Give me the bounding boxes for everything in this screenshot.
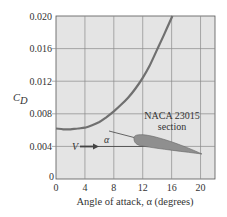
angle-label: α — [104, 134, 110, 145]
x-tick-label: 8 — [111, 182, 116, 193]
x-tick-label: 12 — [138, 182, 148, 193]
x-tick-label: 20 — [196, 182, 206, 193]
y-tick-label: 0.016 — [30, 43, 53, 54]
y-axis-label: C D — [13, 92, 28, 106]
airfoil-label-line2: section — [158, 121, 186, 132]
y-tick-label: 0.004 — [30, 141, 53, 152]
y-axis-label-subscript: D — [19, 95, 28, 106]
x-tick-label: 0 — [54, 182, 59, 193]
y-axis-ticks: 00.0040.0080.0120.0160.020 — [30, 11, 55, 183]
x-axis-label: Angle of attack, α (degrees) — [76, 196, 194, 208]
plot-area — [56, 16, 215, 179]
x-tick-label: 16 — [167, 182, 177, 193]
y-tick-label: 0.008 — [30, 108, 53, 119]
x-tick-label: 4 — [82, 182, 87, 193]
y-tick-label: 0.020 — [30, 11, 53, 22]
y-tick-label: 0 — [49, 171, 54, 182]
y-tick-label: 0.012 — [30, 76, 53, 87]
x-axis-ticks: 048121620 — [54, 182, 206, 193]
airfoil-label-line1: NACA 23015 — [144, 110, 199, 121]
drag-coefficient-chart: 00.0040.0080.0120.0160.020 048121620 V α… — [0, 0, 227, 217]
